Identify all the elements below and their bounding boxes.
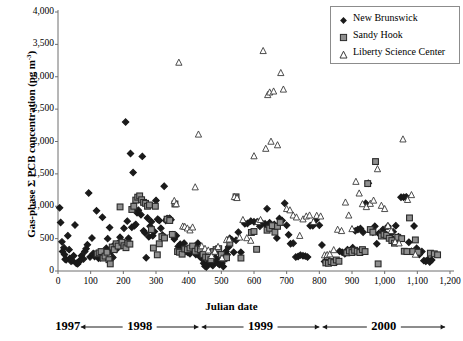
data-point [370,197,376,203]
data-point [147,202,153,208]
data-point [408,192,414,198]
legend-triangle-icon [339,47,348,56]
y-axis-tick-label: 3,000 [12,72,54,82]
data-point [231,249,237,255]
data-point [127,241,133,247]
data-point [374,241,380,247]
y-axis-tick-label: 1,500 [12,169,54,179]
data-point [274,142,280,148]
data-point [143,255,149,261]
year-label: 2000 [364,320,404,333]
data-point [274,235,280,241]
legend-item: Liberty Science Center [337,43,457,60]
year-span-arrowhead [194,324,199,329]
data-point [362,249,368,255]
data-point [139,153,145,159]
y-axis-tick-label: 4,000 [12,7,54,17]
pcb-concentration-scatter-chart: Gas-phase Σ PCB concentration (pg m-3) 0… [0,0,463,341]
data-point [161,183,167,189]
data-point [342,199,348,205]
data-point [238,255,244,261]
data-point [107,261,113,267]
data-point [263,145,269,151]
year-span-arrowhead [441,324,446,329]
data-point [124,218,130,224]
year-label: 1997 [48,320,88,333]
legend-item-label: New Brunswick [353,9,418,26]
data-point [435,252,441,258]
data-point [365,181,371,187]
data-point [65,233,71,239]
data-point [130,169,136,175]
year-span-arrowhead [323,324,328,329]
data-point [89,235,95,241]
data-point [122,119,128,125]
data-point [149,227,155,233]
legend-square-icon [339,30,348,39]
y-axis-tick-label: 500 [12,234,54,244]
data-point [353,178,359,184]
data-point [154,252,160,258]
data-point [374,166,380,172]
data-point [235,229,241,235]
legend-item-label: Liberty Science Center [353,43,445,60]
data-point [277,220,283,226]
data-point [370,229,376,235]
data-point [167,218,173,224]
data-point [278,69,284,75]
data-point [104,235,110,241]
data-point [316,222,322,228]
data-point [373,159,379,165]
chart-legend: New BrunswickSandy HookLiberty Science C… [330,6,460,64]
data-point [93,208,99,214]
data-point [375,261,381,267]
data-point [254,246,260,252]
data-point [156,241,162,247]
data-point [404,249,410,255]
y-axis-tick-label: 2,000 [12,137,54,147]
data-point [331,247,337,253]
legend-item: New Brunswick [337,9,457,26]
data-point [283,222,289,228]
data-point [106,224,112,230]
data-point [251,153,257,159]
data-point [400,136,406,142]
data-point [56,205,62,211]
data-point [86,190,92,196]
y-axis-tick-label: 2,500 [12,104,54,114]
data-point [356,190,362,196]
data-point [260,47,266,53]
legend-item-label: Sandy Hook [353,26,403,43]
year-label: 1998 [120,320,160,333]
data-point [238,249,244,255]
year-span-arrowhead [315,324,320,329]
data-point [195,131,201,137]
data-point [176,59,182,65]
data-point [297,232,303,238]
data-point [412,237,418,243]
data-point [121,225,127,231]
data-point [280,86,286,92]
data-point [336,258,342,264]
data-point [131,203,137,209]
data-point [192,184,198,190]
data-point [411,223,417,229]
data-point [127,150,133,156]
data-point [264,206,270,212]
y-axis-tick-label: 0 [12,266,54,276]
y-axis-tick-labels: 05001,0001,5002,0002,5003,0003,5004,000 [8,0,54,341]
data-point [393,222,399,228]
legend-diamond-icon [339,13,348,22]
data-point [240,216,246,222]
data-point [272,229,278,235]
data-point [158,225,164,231]
data-point [268,138,274,144]
x-axis-tick-label: 1,200 [430,277,463,287]
data-point [319,242,325,248]
data-point [169,232,175,238]
data-point [152,203,158,209]
legend-item: Sandy Hook [337,26,457,43]
y-axis-tick-label: 1,000 [12,201,54,211]
year-label: 1999 [241,320,281,333]
data-point [162,235,168,241]
